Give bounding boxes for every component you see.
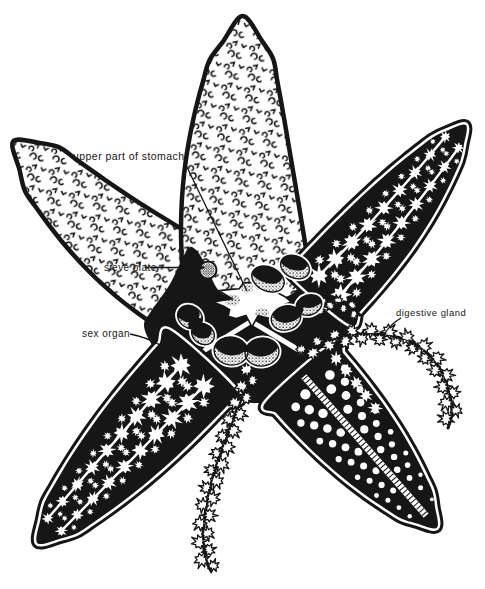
starfish-anatomy-illustration: upper part of stomach sieve plate anus s… <box>0 0 485 589</box>
label-digestive-gland: digestive gland <box>396 307 466 318</box>
label-upper-part-of-stomach: upper part of stomach <box>73 150 185 162</box>
label-anus: anus <box>179 293 199 303</box>
figure-starfish-dissection: upper part of stomach sieve plate anus s… <box>0 0 485 589</box>
sieve-plate <box>200 262 217 279</box>
label-sex-organ: sex organ <box>82 328 130 339</box>
label-sieve-plate: sieve plate <box>104 262 157 273</box>
